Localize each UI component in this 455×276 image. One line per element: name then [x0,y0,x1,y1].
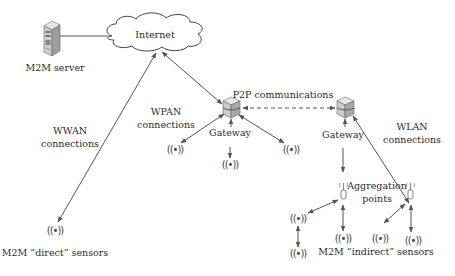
wwan-label-line1: WWAN [53,125,87,137]
sensor-icon-indirect-3: ((•)) [335,233,352,244]
m2m-architecture-diagram: M2M server Internet P2P communications G… [0,0,455,276]
server-label: M2M server [25,62,84,74]
antenna-icon-right [407,183,415,199]
sensor-icon-indirect-1: ((•)) [290,213,307,224]
sensor-icon-indirect-2: ((•)) [290,248,307,259]
indirect-sensors-label: M2M “indirect” sensors [318,246,433,258]
sensor-icon-wpan-right: ((•)) [283,144,300,155]
sensor-icon-direct: ((•)) [47,225,64,236]
wpan-label-line1: WPAN [151,106,181,118]
p2p-label: P2P communications [233,89,334,101]
wpan-label-line2: connections [137,119,195,131]
sensor-icon-wpan-down: ((•)) [222,159,239,170]
gateway-left-label: Gateway [209,127,251,139]
wlan-label-line2: connections [383,134,441,146]
wlan-label-line1: WLAN [396,121,427,133]
internet-label: Internet [135,29,174,41]
gateway-right-label: Gateway [322,129,364,141]
sensor-icon-indirect-5: ((•)) [405,235,422,246]
internet-gateway-link [162,52,222,104]
wwan-label-line2: connections [41,138,99,150]
sensor-icon-indirect-4: ((•)) [372,233,389,244]
aggregation-label-line2: points [362,193,392,205]
sensor-icon-wpan-left: ((•)) [167,144,184,155]
direct-sensors-label: M2M “direct” sensors [2,247,108,259]
gateway-cube-icon-right [337,97,354,118]
server-tower-icon [44,21,60,56]
aggregation-label-line1: Aggregation [347,180,407,192]
